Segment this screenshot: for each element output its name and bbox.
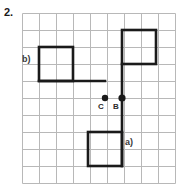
label-a: a) — [125, 137, 133, 147]
point-c-label: C — [98, 102, 104, 111]
point-b — [118, 94, 125, 101]
label-b: b) — [22, 54, 31, 64]
worksheet-figure: 2. CBb)a) — [0, 0, 195, 189]
point-b-label: B — [113, 102, 119, 111]
point-c — [102, 95, 108, 101]
grid-lines — [23, 14, 176, 184]
grid-and-shapes-canvas — [0, 0, 195, 189]
